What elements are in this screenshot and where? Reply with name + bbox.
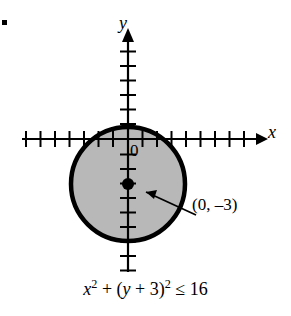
x-axis-arrowhead bbox=[256, 133, 268, 145]
equation-plus-open: + ( bbox=[97, 279, 122, 299]
equation-inner-term: + 3) bbox=[131, 279, 165, 299]
inequality-equation: x2 + (y + 3)2 ≤ 16 bbox=[0, 280, 291, 298]
coordinate-plane-graphic bbox=[0, 0, 291, 316]
origin-label: 0 bbox=[130, 142, 139, 159]
math-figure: y x 0 (0, –3) x2 + (y + 3)2 ≤ 16 bbox=[0, 0, 291, 316]
x-axis-label: x bbox=[268, 123, 276, 141]
equation-relation: ≤ bbox=[171, 279, 190, 299]
equation-var-y: y bbox=[123, 279, 131, 299]
center-point-label: (0, –3) bbox=[192, 196, 237, 213]
center-point-marker bbox=[122, 178, 134, 190]
equation-rhs: 16 bbox=[190, 279, 208, 299]
y-axis-label: y bbox=[119, 14, 127, 32]
